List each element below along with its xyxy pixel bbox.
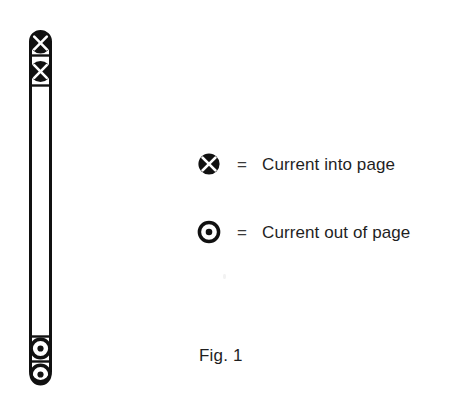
figure-caption: Fig. 1 bbox=[199, 347, 243, 364]
legend-equals-sign: = bbox=[222, 156, 262, 173]
legend-item-current-into-page: = Current into page bbox=[196, 146, 456, 182]
legend: = Current into page = Current out of pag… bbox=[196, 146, 456, 250]
legend-label-current-into-page: Current into page bbox=[262, 156, 395, 173]
scan-artifact bbox=[223, 274, 226, 279]
legend-equals-sign: = bbox=[222, 224, 262, 241]
vertical-conductor-bar bbox=[31, 32, 51, 382]
current-out-of-page-icon bbox=[196, 219, 222, 245]
current-into-page-icon bbox=[196, 151, 222, 177]
conductor-symbol-current-into-page-2 bbox=[30, 61, 51, 82]
legend-item-current-out-of-page: = Current out of page bbox=[196, 214, 456, 250]
legend-label-current-out-of-page: Current out of page bbox=[262, 224, 410, 241]
conductor-symbol-current-into-page-1 bbox=[30, 33, 51, 54]
